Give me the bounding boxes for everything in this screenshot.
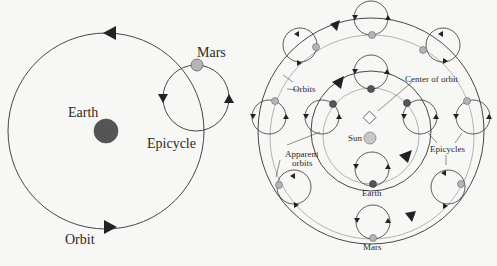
label-sun: Sun bbox=[348, 133, 363, 143]
label-orbits: Orbits bbox=[293, 84, 316, 94]
mars-body bbox=[191, 59, 203, 71]
epicycle-circle bbox=[163, 65, 229, 131]
right-diagram: Orbits Center of orbit Sun Apparent orbi… bbox=[250, 1, 492, 252]
epicycle-arrow-left-icon bbox=[158, 94, 168, 103]
sun-body bbox=[364, 132, 376, 144]
diagram-canvas: Earth Mars Epicycle Orbit bbox=[0, 0, 497, 266]
label-earth: Earth bbox=[68, 105, 98, 120]
label-epicycles: Epicycles bbox=[430, 144, 465, 154]
earth-body bbox=[94, 119, 118, 143]
outer-orbit bbox=[258, 18, 484, 244]
diagram-svg: Earth Mars Epicycle Orbit bbox=[0, 0, 497, 266]
epicycle-arrow-right-icon bbox=[224, 94, 234, 103]
label-center-of-orbit: Center of orbit bbox=[405, 74, 458, 84]
orbit-arrow-bottom-icon bbox=[104, 220, 117, 234]
label-epicycle: Epicycle bbox=[147, 136, 196, 151]
center-of-orbit-marker bbox=[363, 111, 376, 124]
left-diagram: Earth Mars Epicycle Orbit bbox=[8, 26, 234, 247]
label-orbit: Orbit bbox=[65, 232, 95, 247]
label-mars-right: Mars bbox=[363, 242, 382, 252]
label-mars: Mars bbox=[197, 45, 226, 60]
orbit-arrow-top-icon bbox=[103, 26, 116, 40]
label-earth-right: Earth bbox=[362, 188, 382, 198]
label-apparent-orbits-line2: orbits bbox=[292, 158, 313, 168]
